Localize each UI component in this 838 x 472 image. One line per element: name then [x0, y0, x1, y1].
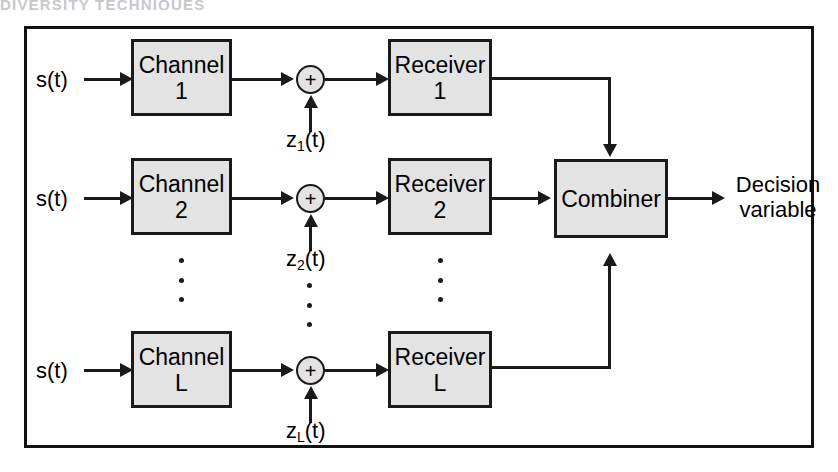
ellipsis-dot	[438, 297, 443, 302]
ellipsis-middle	[306, 283, 312, 327]
arrowhead-adder-1-in	[281, 72, 294, 86]
arrowhead-combiner-top-in	[603, 144, 617, 157]
adder-branch-2-symbol: +	[305, 189, 317, 209]
block-receiver-l-line2: L	[434, 370, 447, 396]
arrowhead-noise-l	[304, 386, 318, 399]
arrowhead-noise-2	[304, 214, 318, 227]
input-label-branch-l: s(t)	[36, 358, 68, 383]
block-combiner[interactable]: Combiner	[554, 159, 668, 238]
adder-branch-1-symbol: +	[305, 70, 317, 90]
block-channel-2[interactable]: Channel 2	[131, 158, 232, 235]
diagram-page: DIVERSITY TECHNIQUES s(t) Channel 1 + z1…	[0, 0, 838, 472]
ellipsis-dot	[307, 322, 312, 327]
ellipsis-dot	[307, 303, 312, 308]
block-channel-2-line1: Channel	[139, 171, 225, 197]
wire-input-1	[84, 78, 124, 81]
ellipsis-dot	[438, 278, 443, 283]
noise-label-branch-l: zL(t)	[286, 418, 326, 450]
ellipsis-dot	[307, 283, 312, 288]
block-channel-l[interactable]: Channel L	[131, 331, 232, 408]
block-receiver-l-line1: Receiver	[395, 344, 486, 370]
wire-adder-2-to-receiver	[325, 197, 381, 200]
arrowhead-adder-l-in	[281, 363, 294, 377]
ellipsis-dot	[179, 297, 184, 302]
block-receiver-2-line1: Receiver	[395, 171, 486, 197]
wire-adder-1-to-receiver	[325, 78, 381, 81]
ellipsis-right	[437, 258, 443, 302]
wire-adder-l-to-receiver	[325, 369, 381, 372]
input-label-branch-1: s(t)	[36, 67, 68, 92]
output-label: Decision variable	[730, 172, 826, 222]
wire-channel-1-to-adder	[232, 78, 284, 81]
cut-off-heading: DIVERSITY TECHNIQUES	[0, 0, 838, 10]
noise-label-branch-2: z2(t)	[286, 246, 326, 278]
wire-receiver-1-down	[608, 77, 611, 144]
ellipsis-dot	[179, 278, 184, 283]
wire-input-l	[84, 369, 124, 372]
ellipsis-left	[178, 258, 184, 302]
block-receiver-2[interactable]: Receiver 2	[388, 158, 492, 235]
block-receiver-1-line2: 1	[434, 78, 447, 104]
output-label-line1: Decision	[736, 172, 820, 197]
adder-branch-l-symbol: +	[305, 361, 317, 381]
ellipsis-dot	[179, 258, 184, 263]
adder-branch-1[interactable]: +	[296, 65, 325, 94]
noise-label-branch-1: z1(t)	[286, 127, 326, 159]
block-channel-2-line2: 2	[175, 197, 188, 223]
arrowhead-noise-1	[304, 95, 318, 108]
output-label-line2: variable	[739, 197, 816, 222]
arrowhead-combiner-left-in	[538, 191, 551, 205]
wire-receiver-l-right	[492, 366, 611, 369]
block-channel-l-line2: L	[175, 370, 188, 396]
wire-combiner-output	[668, 197, 716, 200]
block-channel-1[interactable]: Channel 1	[131, 39, 232, 116]
arrowhead-combiner-bottom-in	[603, 253, 617, 266]
block-channel-1-line2: 1	[175, 78, 188, 104]
block-receiver-1-line1: Receiver	[395, 52, 486, 78]
ellipsis-dot	[438, 258, 443, 263]
input-label-branch-2: s(t)	[36, 186, 68, 211]
adder-branch-2[interactable]: +	[296, 184, 325, 213]
block-receiver-1[interactable]: Receiver 1	[388, 39, 492, 116]
wire-input-2	[84, 197, 124, 200]
wire-channel-2-to-adder	[232, 197, 284, 200]
wire-receiver-l-up	[608, 265, 611, 369]
block-combiner-label: Combiner	[561, 186, 661, 212]
block-receiver-l[interactable]: Receiver L	[388, 331, 492, 408]
block-receiver-2-line2: 2	[434, 197, 447, 223]
arrowhead-adder-2-in	[281, 191, 294, 205]
block-channel-l-line1: Channel	[139, 344, 225, 370]
adder-branch-l[interactable]: +	[296, 356, 325, 385]
wire-channel-l-to-adder	[232, 369, 284, 372]
arrowhead-output	[712, 191, 725, 205]
block-channel-1-line1: Channel	[139, 52, 225, 78]
wire-receiver-1-right	[492, 77, 611, 80]
wire-receiver-2-to-combiner	[492, 197, 541, 200]
